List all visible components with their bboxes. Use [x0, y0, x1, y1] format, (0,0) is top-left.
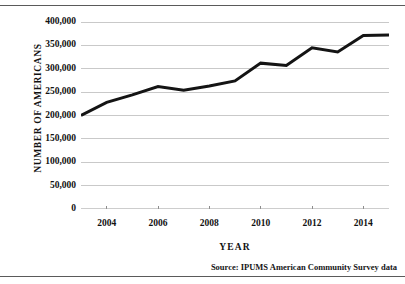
x-tick-label: 2008: [187, 219, 231, 229]
source-note: Source: IPUMS American Community Survey …: [211, 262, 397, 272]
x-tick-label: 2012: [290, 219, 334, 229]
x-tick-label: 2004: [85, 219, 129, 229]
x-tick-label: 2006: [136, 219, 180, 229]
x-tick-label: 2010: [239, 219, 283, 229]
x-axis-title: YEAR: [81, 242, 389, 252]
x-tick-label: 2014: [341, 219, 385, 229]
chart-figure: NUMBER OF AMERICANS 050,000100,000150,00…: [0, 0, 405, 284]
